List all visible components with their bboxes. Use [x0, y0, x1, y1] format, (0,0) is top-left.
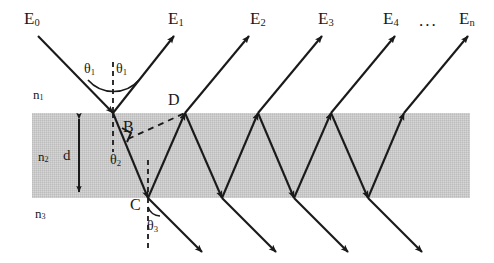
beam-label-En: En [459, 10, 475, 28]
reflected-ray-E2 [185, 36, 249, 113]
thin-film-ray-diagram [0, 0, 494, 263]
angle-label-theta1-reflected: θ1 [116, 62, 127, 76]
beam-label-ellipsis: ... [419, 12, 438, 29]
angle-label-theta3: θ3 [147, 219, 158, 233]
refractive-index-label-n1: n1 [33, 88, 44, 103]
angle-label-theta2: θ2 [110, 153, 121, 167]
point-label-B: B [123, 119, 134, 135]
refractive-index-label-n2: n2 [38, 150, 49, 165]
transmitted-ray-4 [368, 198, 422, 252]
incident-ray-E0 [38, 36, 113, 113]
beam-label-E4: E4 [383, 10, 399, 28]
beam-label-E3: E3 [318, 10, 334, 28]
beam-label-E2: E2 [250, 10, 266, 28]
angle-label-theta1-incident: θ1 [84, 62, 95, 76]
transmitted-ray-3 [294, 198, 348, 252]
point-label-D: D [168, 92, 180, 108]
reflected-rays [113, 36, 468, 113]
thickness-label-d: d [63, 148, 71, 163]
beam-label-E0: E0 [24, 10, 40, 28]
film-layer [32, 113, 470, 198]
reflected-ray-En [404, 36, 468, 113]
beam-label-E1: E1 [168, 10, 184, 28]
transmitted-ray-2 [222, 198, 276, 252]
reflected-ray-E3 [258, 36, 322, 113]
refractive-index-label-n3: n3 [35, 207, 46, 222]
reflected-ray-E4 [331, 36, 395, 113]
point-label-C: C [130, 197, 141, 213]
transmitted-rays [148, 198, 422, 252]
